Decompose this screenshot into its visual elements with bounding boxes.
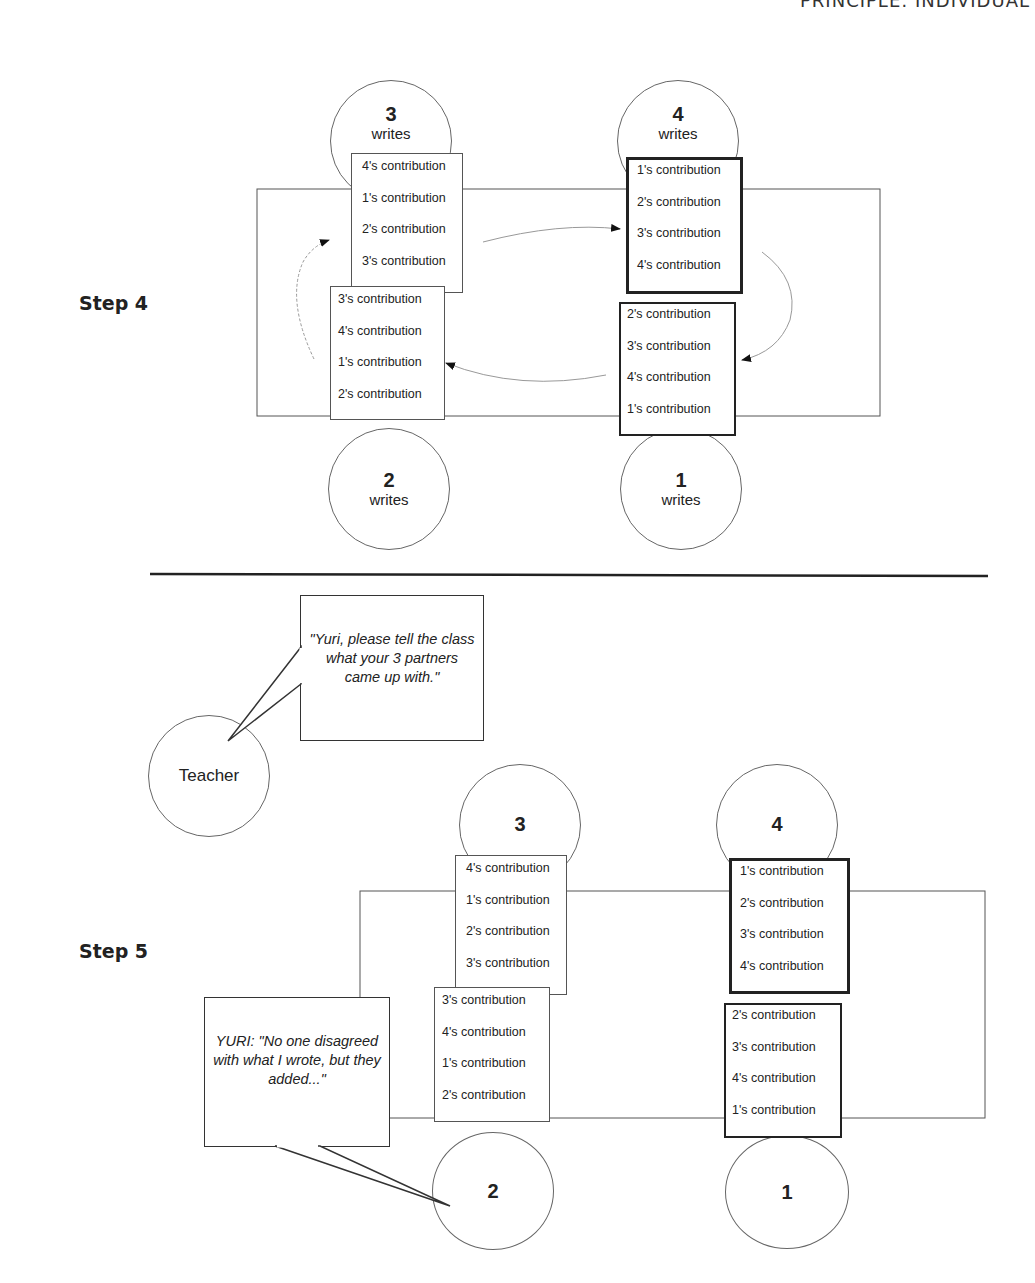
yuri-speech-tail xyxy=(0,0,1035,1283)
